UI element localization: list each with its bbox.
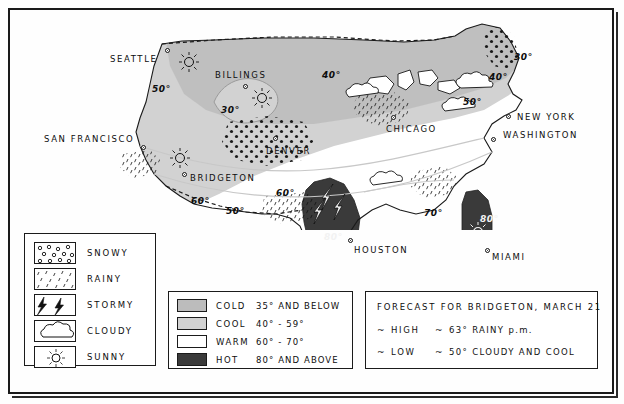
sun-swatch-icon xyxy=(34,346,76,368)
city-label-san-francisco: SAN FRANCISCO xyxy=(44,134,134,144)
legend-item-stormy[interactable]: STORMY xyxy=(34,294,134,316)
temp-legend-name-hot: HOT xyxy=(216,355,252,365)
storm-swatch-icon xyxy=(34,294,76,316)
us-map-svg xyxy=(14,14,610,230)
temp-legend-name-warm: WARM xyxy=(216,337,252,347)
city-label-seattle: SEATTLE xyxy=(110,54,157,64)
forecast-tilde-high: ~ xyxy=(377,325,391,335)
temp-reading-midatlantic: 50° xyxy=(463,97,482,107)
snow-swatch-icon xyxy=(34,242,76,264)
city-label-bridgeton: BRIDGETON xyxy=(190,173,255,183)
temp-legend-range-cool: 40° - 59° xyxy=(256,319,305,329)
temp-legend-range-cold: 35° AND BELOW xyxy=(256,301,340,311)
city-dot-seattle[interactable] xyxy=(165,48,170,53)
temp-legend-item-cold[interactable]: COLD 35° AND BELOW xyxy=(177,299,340,312)
city-dot-denver[interactable] xyxy=(273,136,278,141)
legend-item-sunny[interactable]: SUNNY xyxy=(34,346,126,368)
forecast-box: FORECAST FOR BRIDGETON, MARCH 21 ~ HIGH … xyxy=(365,291,598,369)
temperature-legend-box: COLD 35° AND BELOW COOL 40° - 59° WARM 6… xyxy=(168,291,353,369)
forecast-key-low: LOW xyxy=(391,347,435,357)
forecast-key-high: HIGH xyxy=(391,325,435,335)
legend-item-rainy[interactable]: RAINY xyxy=(34,268,122,290)
hot-color-swatch xyxy=(177,353,207,366)
temp-reading-dakotas: 40° xyxy=(322,70,341,80)
temp-reading-southwest: 50° xyxy=(226,206,245,216)
temp-reading-maine: 30° xyxy=(514,52,533,62)
city-dot-new-york[interactable] xyxy=(506,114,511,119)
weather-map-page: SEATTLE BILLINGS DENVER SAN FRANCISCO BR… xyxy=(0,0,624,404)
temp-reading-southeast: 70° xyxy=(424,208,443,218)
temp-reading-florida: 80° xyxy=(480,214,499,224)
forecast-value-low: 50° CLOUDY AND COOL xyxy=(449,347,575,357)
city-label-miami: MIAMI xyxy=(492,252,526,262)
forecast-sep-low: ~ xyxy=(435,347,449,357)
cold-color-swatch xyxy=(177,299,207,312)
city-dot-billings[interactable] xyxy=(243,84,248,89)
temp-legend-range-warm: 60° - 70° xyxy=(256,337,305,347)
city-dot-miami[interactable] xyxy=(485,248,490,253)
weather-map[interactable]: SEATTLE BILLINGS DENVER SAN FRANCISCO BR… xyxy=(14,14,610,226)
legend-item-snowy[interactable]: SNOWY xyxy=(34,242,129,264)
temp-legend-item-warm[interactable]: WARM 60° - 70° xyxy=(177,335,305,348)
temp-legend-name-cold: COLD xyxy=(216,301,252,311)
temp-reading-plains: 60° xyxy=(276,188,295,198)
legend-label-rainy: RAINY xyxy=(87,274,122,284)
city-dot-bridgeton[interactable] xyxy=(182,172,187,177)
forecast-tilde-low: ~ xyxy=(377,347,391,357)
city-label-washington: WASHINGTON xyxy=(503,130,578,140)
city-label-new-york: NEW YORK xyxy=(517,112,576,122)
legend-label-stormy: STORMY xyxy=(87,300,134,310)
temp-reading-texas: 80° xyxy=(324,232,343,242)
temp-reading-montana: 30° xyxy=(221,105,240,115)
forecast-row-high: ~ HIGH ~ 63° RAINY p.m. xyxy=(377,325,533,335)
city-label-chicago: CHICAGO xyxy=(386,124,437,134)
forecast-title: FORECAST FOR BRIDGETON, MARCH 21 xyxy=(377,302,602,312)
cloud-swatch-icon xyxy=(34,320,76,342)
legend-label-cloudy: CLOUDY xyxy=(87,326,133,336)
city-label-denver: DENVER xyxy=(266,146,311,156)
temp-legend-name-cool: COOL xyxy=(216,319,252,329)
city-label-houston: HOUSTON xyxy=(354,245,408,255)
legend-label-sunny: SUNNY xyxy=(87,352,126,362)
legend-label-snowy: SNOWY xyxy=(87,248,129,258)
symbol-legend-box: SNOWY RAINY xyxy=(24,233,156,366)
temp-reading-northwest: 50° xyxy=(152,84,171,94)
forecast-sep-high: ~ xyxy=(435,325,449,335)
temp-legend-item-hot[interactable]: HOT 80° AND ABOVE xyxy=(177,353,339,366)
temp-legend-range-hot: 80° AND ABOVE xyxy=(256,355,339,365)
warm-color-swatch xyxy=(177,335,207,348)
city-dot-chicago[interactable] xyxy=(391,115,396,120)
forecast-value-high: 63° RAINY p.m. xyxy=(449,325,533,335)
city-dot-houston[interactable] xyxy=(348,238,353,243)
temp-reading-california: 60° xyxy=(191,196,210,206)
cool-color-swatch xyxy=(177,317,207,330)
rain-swatch-icon xyxy=(34,268,76,290)
legend-item-cloudy[interactable]: CLOUDY xyxy=(34,320,133,342)
city-dot-washington[interactable] xyxy=(491,137,496,142)
temp-reading-newengland: 40° xyxy=(489,72,508,82)
city-dot-san-francisco[interactable] xyxy=(141,145,146,150)
temp-legend-item-cool[interactable]: COOL 40° - 59° xyxy=(177,317,305,330)
forecast-row-low: ~ LOW ~ 50° CLOUDY AND COOL xyxy=(377,347,575,357)
city-label-billings: BILLINGS xyxy=(215,70,266,80)
